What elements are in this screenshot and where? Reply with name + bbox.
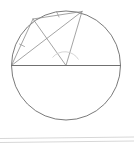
figure-canvas — [0, 0, 134, 149]
geometry-diagram — [0, 0, 134, 149]
background-rect — [0, 0, 134, 149]
